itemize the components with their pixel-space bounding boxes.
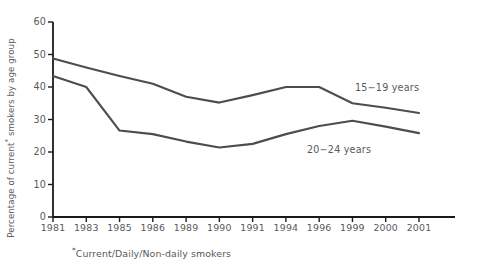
series-lines <box>53 58 419 147</box>
y-axis-title: Percentage of current* smokers by age gr… <box>0 0 22 276</box>
line-chart: Percentage of current* smokers by age gr… <box>0 0 477 276</box>
axis-lines <box>53 22 455 217</box>
chart-footnote: *Current/Daily/Non-daily smokers <box>72 248 231 259</box>
y-tick-label: 0 <box>22 211 46 222</box>
y-tick-label: 40 <box>22 81 46 92</box>
y-tick-label: 30 <box>22 114 46 125</box>
y-axis-title-text: Percentage of current* smokers by age gr… <box>6 38 16 237</box>
footnote-text: *Current/Daily/Non-daily smokers <box>72 248 231 259</box>
y-tick-label: 20 <box>22 146 46 157</box>
y-tick-label: 60 <box>22 16 46 27</box>
series-label-20-24: 20−24 years <box>307 144 371 155</box>
series-label-15-19: 15−19 years <box>355 82 419 93</box>
y-tick-label: 50 <box>22 49 46 60</box>
y-tick-label: 10 <box>22 179 46 190</box>
plot-area <box>0 0 477 276</box>
x-tick-label: 2001 <box>397 222 441 233</box>
